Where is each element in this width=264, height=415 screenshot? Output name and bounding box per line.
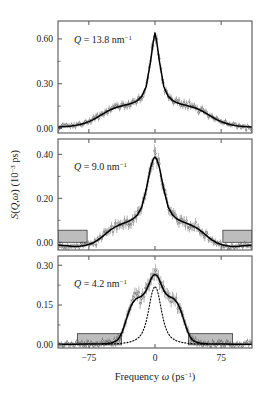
shaded-box [58,230,87,242]
y-tick-label: 0.30 [36,261,53,271]
y-tick-label: 0.20 [36,194,53,204]
x-tick-label: −75 [81,353,96,363]
y-tick-label: 0.00 [36,340,53,350]
x-tick-label: 75 [216,353,226,363]
x-axis-title: Frequency ω (ps−1) [115,371,196,384]
y-tick-label: 0.40 [36,150,53,160]
y-tick-label: 0.00 [36,124,53,134]
three-panel-spectra-plot: 0.000.300.60Q = 13.8 nm−10.000.200.40Q =… [0,0,264,415]
y-tick-label: 0.30 [36,79,53,89]
shaded-box [223,230,252,242]
q-annotation-panel-1: Q = 13.8 nm−1 [74,34,132,45]
y-tick-label: 0.15 [36,300,53,310]
y-tick-label: 0.00 [36,238,53,248]
y-tick-label: 0.60 [36,34,53,44]
q-annotation-panel-3: Q = 4.2 nm−1 [74,278,127,289]
q-annotation-panel-2: Q = 9.0 nm−1 [74,161,127,172]
x-tick-label: 0 [153,353,158,363]
figure-container: 0.000.300.60Q = 13.8 nm−10.000.200.40Q =… [0,0,264,415]
y-axis-title: S(Q,ω) (10−3 ps) [9,149,22,219]
